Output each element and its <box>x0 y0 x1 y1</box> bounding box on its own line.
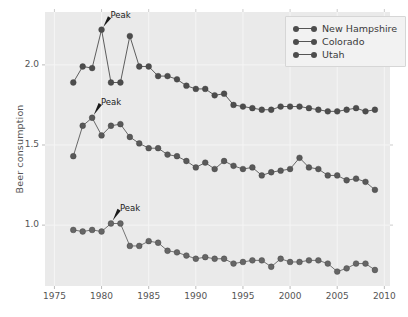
data-point <box>202 160 208 166</box>
legend-item-colorado[interactable]: Colorado <box>292 35 397 48</box>
data-point <box>287 259 293 265</box>
x-tick-label: 1985 <box>129 291 169 301</box>
data-point <box>108 123 114 129</box>
data-point <box>325 108 331 114</box>
legend-label: New Hampshire <box>318 23 397 34</box>
data-point <box>344 177 350 183</box>
data-point <box>136 140 142 146</box>
data-point <box>297 259 303 265</box>
data-point <box>259 173 265 179</box>
legend-item-utah[interactable]: Utah <box>292 48 397 61</box>
chart-legend[interactable]: New Hampshire Colorado Utah <box>285 16 406 67</box>
data-point <box>344 265 350 271</box>
data-point <box>155 73 161 79</box>
data-point <box>268 264 274 270</box>
data-point <box>363 108 369 114</box>
data-point <box>136 64 142 70</box>
peak-annotation: Peak <box>101 97 121 107</box>
data-point <box>353 105 359 111</box>
data-point <box>278 104 284 110</box>
data-point <box>70 80 76 86</box>
x-tick-label: 1990 <box>176 291 216 301</box>
data-point <box>212 92 218 98</box>
data-point <box>259 257 265 263</box>
data-point <box>202 86 208 92</box>
data-point <box>297 104 303 110</box>
data-point <box>249 257 255 263</box>
series-line-1 <box>73 118 375 190</box>
data-point <box>325 173 331 179</box>
legend-label: Colorado <box>318 36 364 47</box>
data-point <box>297 155 303 161</box>
data-point <box>165 152 171 158</box>
data-point <box>212 256 218 262</box>
data-point <box>127 134 133 140</box>
data-point <box>240 104 246 110</box>
data-point <box>202 254 208 260</box>
peak-annotation: Peak <box>120 203 140 213</box>
data-point <box>221 256 227 262</box>
data-point <box>306 165 312 171</box>
data-point <box>306 105 312 111</box>
data-point <box>89 65 95 71</box>
data-point <box>315 107 321 113</box>
data-point <box>127 33 133 39</box>
data-point <box>193 165 199 171</box>
data-point <box>221 158 227 164</box>
data-point <box>70 227 76 233</box>
data-point <box>268 107 274 113</box>
x-tick-label: 1995 <box>223 291 263 301</box>
data-point <box>118 80 124 86</box>
data-point <box>334 108 340 114</box>
legend-marker-icon <box>292 23 318 34</box>
data-point <box>353 261 359 267</box>
peak-annotation: Peak <box>110 10 130 20</box>
data-point <box>372 107 378 113</box>
legend-item-new-hampshire[interactable]: New Hampshire <box>292 22 397 35</box>
data-point <box>146 238 152 244</box>
data-point <box>259 107 265 113</box>
data-point <box>278 168 284 174</box>
data-point <box>155 240 161 246</box>
data-point <box>363 179 369 185</box>
data-point <box>118 221 124 227</box>
data-point <box>80 123 86 129</box>
data-point <box>89 115 95 121</box>
data-point <box>268 169 274 175</box>
data-point <box>127 243 133 249</box>
data-point <box>165 248 171 254</box>
data-point <box>249 105 255 111</box>
data-point <box>325 261 331 267</box>
x-tick-label: 2010 <box>364 291 404 301</box>
data-point <box>193 256 199 262</box>
data-point <box>287 166 293 172</box>
x-tick-label: 1975 <box>34 291 74 301</box>
data-point <box>372 267 378 273</box>
data-point <box>372 187 378 193</box>
data-point <box>108 80 114 86</box>
data-point <box>315 257 321 263</box>
data-point <box>165 73 171 79</box>
data-point <box>99 229 105 235</box>
data-point <box>363 261 369 267</box>
data-point <box>240 259 246 265</box>
legend-marker-icon <box>292 49 318 60</box>
legend-marker-icon <box>292 36 318 47</box>
data-point <box>80 229 86 235</box>
data-point <box>70 153 76 159</box>
data-point <box>306 257 312 263</box>
data-point <box>240 166 246 172</box>
data-point <box>174 76 180 82</box>
data-point <box>89 227 95 233</box>
data-point <box>155 145 161 151</box>
data-point <box>212 166 218 172</box>
data-point <box>334 269 340 275</box>
data-point <box>146 64 152 70</box>
data-point <box>174 249 180 255</box>
chart-figure: Beer consumption New Hampshire Colorado … <box>0 0 408 317</box>
x-tick-label: 1980 <box>82 291 122 301</box>
data-point <box>108 221 114 227</box>
y-tick-label: 2.0 <box>11 59 39 69</box>
data-point <box>183 158 189 164</box>
y-tick-label: 1.0 <box>11 219 39 229</box>
